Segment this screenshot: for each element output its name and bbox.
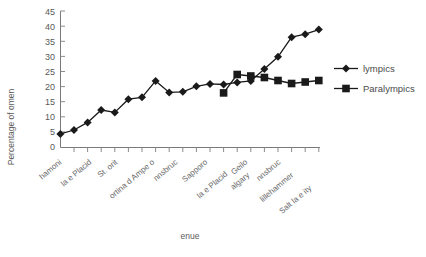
legend-label-olympics: lympics: [363, 63, 395, 74]
legend-label-paralympics: Paralympics: [363, 83, 415, 94]
cat-label-0: hamoni: [37, 158, 63, 182]
x-axis-title: enue: [181, 231, 200, 241]
cat-label-1: la e Placid: [59, 158, 93, 189]
cat-label-2: St. orit: [96, 157, 120, 179]
y-axis-title: Percentage of omen: [6, 88, 16, 165]
y-tick-0: 0: [50, 142, 55, 152]
y-tick-15: 15: [45, 97, 55, 107]
y-tick-40: 40: [45, 22, 55, 32]
y-tick-5: 5: [50, 127, 55, 137]
legend-marker-diamond-icon: [342, 65, 350, 73]
y-tick-20: 20: [45, 82, 55, 92]
y-axis-ticks: [61, 11, 66, 132]
y-tick-30: 30: [45, 52, 55, 62]
y-tick-10: 10: [45, 112, 55, 122]
chart-legend: lympics Paralympics: [334, 63, 415, 94]
line-chart: Percentage of omen 45 40 35 30 25 20 15 …: [0, 0, 426, 257]
cat-label-11: Salt la e ity: [278, 184, 314, 216]
y-axis-tick-labels: 45 40 35 30 25 20 15 10 5 0: [45, 7, 55, 153]
chart-container: Percentage of omen 45 40 35 30 25 20 15 …: [0, 0, 426, 257]
cat-label-6: la e Placid: [195, 170, 229, 201]
x-axis-category-labels: hamoni la e Placid St. orit ortina d Amp…: [37, 157, 313, 216]
cat-label-5: Sapporo: [180, 157, 209, 184]
y-tick-35: 35: [45, 37, 55, 47]
y-tick-25: 25: [45, 67, 55, 77]
y-tick-45: 45: [45, 7, 55, 17]
cat-label-4: nnsbruc: [152, 158, 180, 183]
x-axis-ticks: [74, 148, 319, 153]
legend-marker-square-icon: [342, 85, 350, 93]
